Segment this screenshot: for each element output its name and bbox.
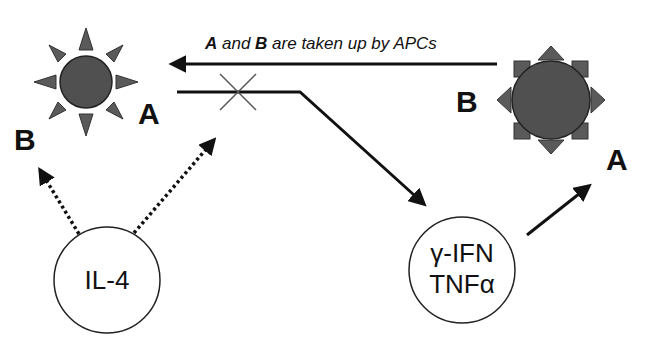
ifn-to-a-arrow <box>527 186 589 235</box>
il4-to-a-dotted-arrow <box>134 140 214 233</box>
il4-to-b-dotted-arrow <box>40 170 79 234</box>
left-apc-cell-icon <box>34 28 138 136</box>
right-label-b: B <box>456 85 478 118</box>
left-label-b: B <box>14 123 36 156</box>
left-label-a: A <box>138 97 160 130</box>
uptake-caption: A and B are taken up by APCs <box>204 34 437 53</box>
right-apc-cell-icon <box>497 46 605 154</box>
il4-label: IL-4 <box>85 265 130 295</box>
right-label-a: A <box>606 143 628 176</box>
tnf-label: TNFα <box>429 269 495 299</box>
immune-diagram: A B A and B are taken up by APCs B A IL-… <box>0 0 648 347</box>
ifn-label: γ-IFN <box>430 238 494 268</box>
a-to-ifn-arrow <box>177 92 424 204</box>
